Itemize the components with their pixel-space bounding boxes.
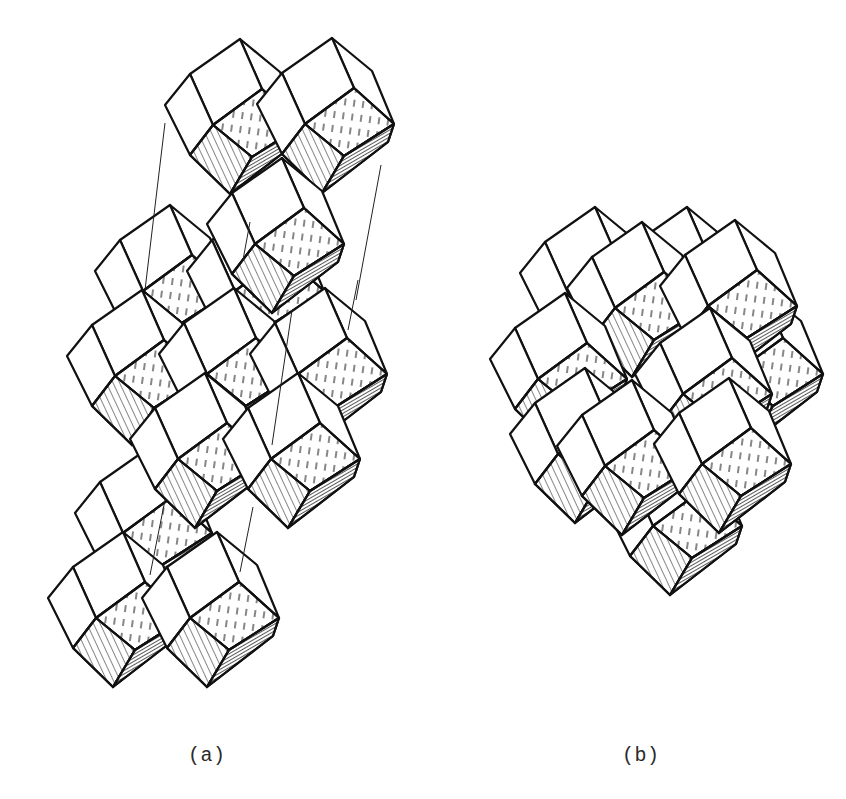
guide-line <box>356 165 381 300</box>
panel-label-b: (b) <box>622 744 660 767</box>
rhombic-dodecahedra-figure <box>0 0 846 799</box>
panel-b-cells <box>490 207 823 595</box>
panel-label-a: (a) <box>188 744 226 767</box>
panel-a-cells <box>48 38 394 687</box>
